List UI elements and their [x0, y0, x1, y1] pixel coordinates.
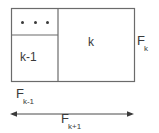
dimension-label-f-k: Fk — [137, 32, 149, 51]
cell-label-k-minus-1: k-1 — [20, 51, 37, 63]
ellipsis-dot — [46, 21, 49, 24]
ellipsis-dots-icon — [21, 18, 49, 26]
dimension-label-f-k-plus-1-subscript: k+1 — [68, 122, 81, 131]
arrowhead-right-icon — [127, 111, 134, 117]
cell-label-k: k — [88, 36, 94, 48]
dimension-label-f-k-minus-1: Fk-1 — [16, 85, 35, 104]
ellipsis-dot — [21, 21, 24, 24]
arrowhead-left-icon — [10, 111, 17, 117]
dimension-label-f-k-subscript: k — [144, 44, 148, 53]
ellipsis-dot — [34, 21, 37, 24]
dimension-label-f-k-plus-1: Fk+1 — [61, 110, 82, 129]
dimension-label-f-k-minus-1-subscript: k-1 — [23, 97, 34, 106]
fibonacci-rectangle-diagram: k-1 k Fk Fk-1 Fk+1 — [0, 0, 159, 133]
